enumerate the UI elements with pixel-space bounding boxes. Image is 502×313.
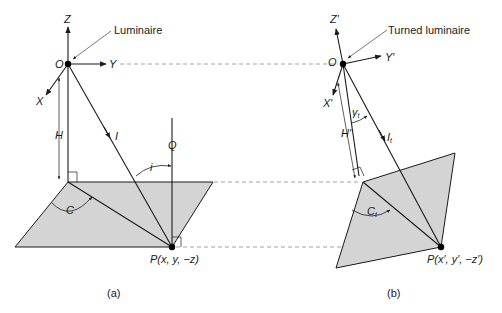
- origin-label-a: O: [55, 58, 64, 70]
- incidence-angle-arc: [136, 165, 171, 176]
- diagram-a: Luminaire Z Y X O H I Q i C P(x, y, −z) …: [15, 13, 213, 299]
- intensity-label-a: I: [115, 130, 118, 142]
- height-label-a: H: [55, 129, 63, 141]
- diagram-b: Turned luminaire Z′ Y′ X′ O H′ γt It Ct …: [322, 13, 483, 299]
- clipped-caption-strip: [0, 307, 502, 313]
- intensity-arrow-b: [379, 130, 385, 141]
- point-label-b: P(x′, y′, −z′): [427, 253, 483, 265]
- intensity-label-b: It: [387, 131, 393, 144]
- azimuth-label-a: C: [66, 204, 74, 216]
- callout-turned-luminaire: Turned luminaire: [388, 24, 470, 36]
- x-axis-b: [333, 64, 343, 95]
- work-plane-a: [15, 182, 213, 247]
- tilted-axis-b: [343, 64, 359, 176]
- gamma-subscript: t: [358, 112, 361, 119]
- z-axis-b: [336, 29, 343, 64]
- axis-label-z: Z: [63, 13, 72, 25]
- luminaire-callout-arrow: [73, 31, 111, 59]
- point-p-b: [438, 244, 444, 250]
- axis-label-x: X: [35, 95, 44, 107]
- subfigure-label-b: (b): [387, 287, 400, 299]
- right-angle-marker-a-foot: [68, 172, 77, 182]
- axis-label-z-prime: Z′: [329, 13, 340, 25]
- intensity-arrow-a: [104, 127, 110, 138]
- callout-luminaire: Luminaire: [114, 24, 162, 36]
- point-label-a: P(x, y, −z): [150, 253, 199, 265]
- gamma-label-b: γt: [352, 106, 361, 119]
- origin-label-b: O: [328, 56, 337, 68]
- axis-label-y: Y: [109, 58, 117, 70]
- point-p-a: [169, 244, 175, 250]
- axis-label-x-prime: X′: [322, 97, 333, 109]
- height-label-b: H′: [341, 127, 352, 139]
- intensity-subscript: t: [390, 137, 393, 144]
- azimuth-symbol: C: [367, 205, 375, 217]
- origin-point-b: [340, 61, 346, 67]
- origin-point-a: [65, 61, 71, 67]
- axis-label-y-prime: Y′: [385, 51, 395, 63]
- luminaire-geometry-figure: Luminaire Z Y X O H I Q i C P(x, y, −z) …: [0, 0, 502, 313]
- turned-luminaire-callout-arrow: [348, 30, 387, 58]
- normal-label-q: Q: [168, 139, 177, 151]
- subfigure-label-a: (a): [107, 287, 120, 299]
